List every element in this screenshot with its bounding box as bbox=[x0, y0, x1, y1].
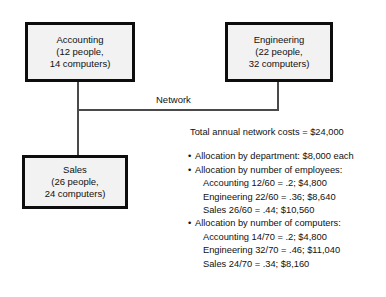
node-sales: Sales (26 people, 24 computers) bbox=[22, 155, 128, 209]
network-bus-label: Network bbox=[152, 94, 195, 105]
node-accounting: Accounting (12 people, 14 computers) bbox=[25, 22, 135, 82]
bullet-icon: • bbox=[188, 164, 191, 177]
node-accounting-computers: 14 computers) bbox=[50, 58, 111, 70]
cost-notes-panel: Total annual network costs = $24,000 •Al… bbox=[188, 126, 384, 271]
node-accounting-title: Accounting bbox=[56, 34, 103, 46]
allocation-item: Accounting 14/70 = .2; $4,800 bbox=[188, 231, 384, 244]
allocation-item: Accounting 12/60 = .2; $4,800 bbox=[188, 177, 384, 190]
allocation-group-computers: •Allocation by number of computers: Acco… bbox=[188, 217, 384, 271]
link-engineering-to-bus bbox=[277, 82, 279, 110]
node-engineering-title: Engineering bbox=[254, 34, 305, 46]
network-cost-allocation-diagram: Network Accounting (12 people, 14 comput… bbox=[0, 0, 386, 297]
allocation-heading-employees: •Allocation by number of employees: bbox=[188, 164, 384, 177]
total-annual-cost-line: Total annual network costs = $24,000 bbox=[190, 126, 384, 139]
allocation-item: Engineering 22/60 = .36; $8,640 bbox=[188, 191, 384, 204]
link-accounting-to-sales bbox=[77, 82, 79, 156]
node-engineering: Engineering (22 people, 32 computers) bbox=[225, 22, 333, 82]
bullet-icon: • bbox=[188, 150, 191, 163]
allocation-heading-computers: •Allocation by number of computers: bbox=[188, 217, 384, 230]
allocation-group-employees: •Allocation by number of employees: Acco… bbox=[188, 164, 384, 218]
node-sales-computers: 24 computers) bbox=[45, 188, 106, 200]
allocation-item: Engineering 32/70 = .46; $11,040 bbox=[188, 244, 384, 257]
allocation-group-department: •Allocation by department: $8,000 each bbox=[188, 150, 384, 163]
allocation-heading-department: •Allocation by department: $8,000 each bbox=[188, 150, 384, 163]
allocation-heading-employees-text: Allocation by number of employees: bbox=[195, 165, 342, 175]
link-network-bus bbox=[77, 109, 279, 111]
bullet-icon: • bbox=[188, 217, 191, 230]
node-engineering-people: (22 people, bbox=[255, 46, 303, 58]
node-sales-people: (26 people, bbox=[51, 176, 99, 188]
node-accounting-people: (12 people, bbox=[56, 46, 104, 58]
node-engineering-computers: 32 computers) bbox=[249, 58, 310, 70]
allocation-item: Sales 24/70 = .34; $8,160 bbox=[188, 258, 384, 271]
allocation-heading-department-text: Allocation by department: $8,000 each bbox=[195, 151, 354, 161]
allocation-heading-computers-text: Allocation by number of computers: bbox=[195, 218, 341, 228]
allocation-item: Sales 26/60 = .44; $10,560 bbox=[188, 204, 384, 217]
node-sales-title: Sales bbox=[63, 164, 87, 176]
